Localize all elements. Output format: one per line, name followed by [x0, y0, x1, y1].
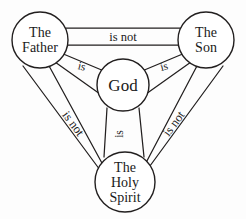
- node-son[interactable]: The Son: [178, 12, 234, 68]
- edge-god-holyspirit: is: [104, 108, 144, 157]
- edge-god-holyspirit-line-left: [104, 108, 107, 157]
- node-holy-spirit-label-line1: The: [114, 160, 136, 175]
- node-father-label-line1: The: [29, 25, 51, 40]
- edge-father-son: is not: [65, 28, 181, 45]
- node-son-label-line1: The: [195, 25, 217, 40]
- node-god[interactable]: God: [97, 59, 149, 111]
- node-holy-spirit-label-line3: Spirit: [109, 190, 140, 205]
- edge-god-holyspirit-line-right: [139, 108, 144, 157]
- node-holy-spirit-label-line2: Holy: [111, 175, 139, 190]
- node-father[interactable]: The Father: [12, 12, 68, 68]
- edge-son-god-label: is: [159, 59, 170, 73]
- edge-father-holyspirit: is not: [23, 64, 109, 176]
- edge-father-holyspirit-label: is not: [59, 108, 87, 139]
- node-son-label-line2: Son: [195, 40, 217, 55]
- trinity-diagram: is not is not is not is is: [0, 0, 246, 219]
- edge-son-holyspirit-label: is not: [160, 108, 188, 139]
- node-holy-spirit[interactable]: The Holy Spirit: [95, 152, 155, 212]
- node-father-label-line2: Father: [22, 40, 58, 55]
- edge-son-holyspirit: is not: [139, 64, 223, 176]
- edge-father-god-label: is: [77, 59, 88, 73]
- node-god-label: God: [108, 76, 138, 95]
- edge-father-son-label: is not: [109, 30, 137, 44]
- edge-god-holyspirit-label: is: [113, 130, 125, 138]
- trinity-diagram-canvas: is not is not is not is is: [0, 0, 246, 219]
